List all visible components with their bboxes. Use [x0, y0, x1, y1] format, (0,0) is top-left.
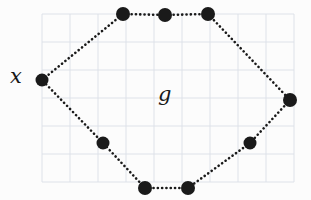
graph-vertex	[283, 93, 297, 107]
graph-vertex	[158, 8, 172, 22]
graph-vertex	[181, 181, 195, 195]
graph-vertex	[138, 181, 152, 195]
graph-edge	[42, 80, 103, 143]
vertex-label-x: x	[10, 66, 22, 87]
graph-edge	[250, 100, 290, 143]
graph-edge	[208, 14, 290, 100]
graph-drawing	[0, 0, 311, 200]
graph-edge	[188, 143, 250, 188]
graph-edge	[103, 143, 145, 188]
graph-vertex	[244, 137, 257, 150]
graph-vertex	[36, 74, 49, 87]
graph-vertex	[201, 7, 215, 21]
graph-vertex	[97, 137, 110, 150]
figure-canvas: x g	[0, 0, 311, 200]
graph-vertex	[116, 7, 130, 21]
graph-label-g: g	[158, 84, 171, 105]
